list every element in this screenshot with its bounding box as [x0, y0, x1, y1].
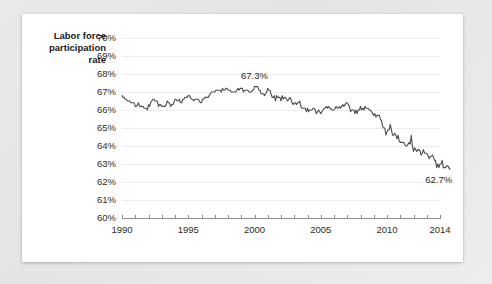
y-tick-label: 68%: [97, 68, 117, 79]
y-tick-label: 67%: [97, 86, 117, 97]
line-chart: 70%69%68%67%66%65%64%63%62%61%60% 199019…: [22, 14, 463, 262]
y-tick-label: 69%: [97, 50, 117, 61]
y-tick-label: 60%: [97, 212, 117, 223]
x-tick-label: 2010: [376, 224, 397, 235]
gridlines-group: [122, 39, 440, 201]
x-tick-label: 1990: [111, 224, 132, 235]
annotations-group: 67.3%62.7%: [241, 70, 453, 186]
y-tick-label: 64%: [97, 140, 117, 151]
x-tick-labels-group: 199019952000200520102014: [111, 224, 450, 235]
y-tick-label: 61%: [97, 194, 117, 205]
x-tick-label: 2000: [244, 224, 265, 235]
y-tick-label: 62%: [97, 176, 117, 187]
screenshot-root: Labor force participation rate 70%69%68%…: [0, 0, 492, 284]
chart-plot-area: 70%69%68%67%66%65%64%63%62%61%60% 199019…: [22, 14, 463, 262]
data-annotation-label: 62.7%: [425, 174, 452, 185]
y-tick-labels-group: 70%69%68%67%66%65%64%63%62%61%60%: [97, 32, 117, 223]
y-tick-label: 70%: [97, 32, 117, 43]
x-tick-label: 2014: [429, 224, 450, 235]
y-tick-label: 66%: [97, 104, 117, 115]
y-tick-label: 65%: [97, 122, 117, 133]
data-annotation-label: 67.3%: [241, 70, 268, 81]
x-tick-label: 2005: [310, 224, 331, 235]
y-tick-label: 63%: [97, 158, 117, 169]
x-tick-marks-group: [123, 215, 441, 219]
x-tick-label: 1995: [178, 224, 199, 235]
chart-card: Labor force participation rate 70%69%68%…: [22, 14, 463, 262]
